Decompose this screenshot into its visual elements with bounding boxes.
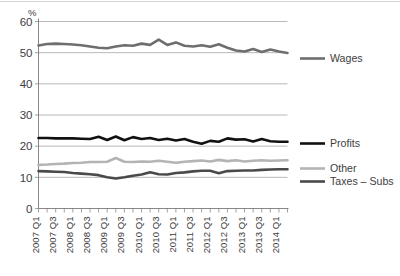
y-tick-label-50: 50 [20,47,33,59]
x-tick-label: 2012 Q3 [218,217,229,254]
chart-canvas: 0102030405060 % 2007 Q12007 Q32008 Q1200… [0,0,400,276]
y-tick-label-10: 10 [20,172,33,184]
x-tick-label: 2008 Q1 [64,217,75,254]
x-tick-label: 2008 Q3 [81,217,92,254]
chart-legend: WagesProfitsOtherTaxes – Subs [300,52,394,187]
x-tick-label: 2009 Q1 [98,217,109,254]
x-tick-label: 2011 Q3 [184,217,195,253]
x-tick-label: 2010 Q1 [133,217,144,254]
x-tick-label: 2010 Q3 [150,217,161,254]
series-line-other [39,158,288,165]
x-tick-label: 2007 Q1 [30,217,41,254]
x-tick-label: 2009 Q3 [115,217,126,254]
line-chart: 0102030405060 % 2007 Q12007 Q32008 Q1200… [0,0,400,276]
legend-label-profits: Profits [330,137,360,149]
series-lines [39,40,288,179]
x-tick-label: 2007 Q3 [47,217,58,254]
y-tick-label-20: 20 [20,140,33,152]
x-tick-label: 2011 Q1 [167,217,178,253]
y-tick-label-40: 40 [20,78,33,90]
y-tick-labels: 0102030405060 [20,16,33,215]
x-axis [39,209,289,213]
legend-label-taxes-subs: Taxes – Subs [330,175,394,187]
x-tick-label: 2013 Q3 [253,217,264,254]
y-axis [35,19,39,209]
x-tick-label: 2012 Q1 [201,217,212,254]
series-line-profits [39,137,288,144]
x-tick-label: 2014 Q1 [270,217,281,254]
legend-label-other: Other [330,162,357,174]
x-tick-label: 2013 Q1 [236,217,247,254]
series-line-wages [39,40,288,53]
y-axis-unit-label: % [28,7,37,18]
x-tick-labels: 2007 Q12007 Q32008 Q12008 Q32009 Q12009 … [30,217,281,254]
legend-label-wages: Wages [330,52,363,64]
y-tick-label-0: 0 [26,203,32,215]
y-tick-label-30: 30 [20,109,33,121]
